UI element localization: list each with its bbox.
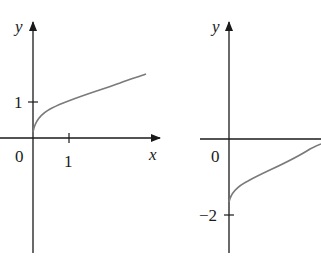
left-y-axis-label: y: [13, 17, 23, 36]
right-graph: y 0 −2: [199, 17, 321, 253]
graphs-canvas: y x 0 1 1 y 0 −2: [0, 0, 321, 275]
right-y-tick-label: −2: [199, 206, 217, 225]
right-curve: [229, 144, 321, 202]
right-y-axis-label: y: [210, 17, 220, 36]
left-origin-label: 0: [15, 147, 24, 166]
left-x-tick-label: 1: [64, 152, 73, 171]
left-y-tick-label: 1: [14, 93, 23, 112]
left-curve: [33, 74, 146, 132]
left-graph: y x 0 1 1: [0, 17, 160, 253]
right-origin-label: 0: [211, 147, 220, 166]
left-x-axis-label: x: [148, 145, 157, 164]
